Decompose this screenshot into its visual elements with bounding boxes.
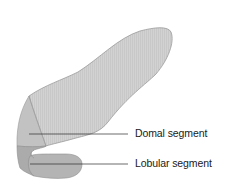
domal-segment-label: Domal segment	[135, 127, 207, 139]
lobular-segment-label: Lobular segment	[135, 157, 212, 169]
lobular-segment-shape	[28, 154, 82, 178]
diagram-canvas	[0, 0, 229, 183]
